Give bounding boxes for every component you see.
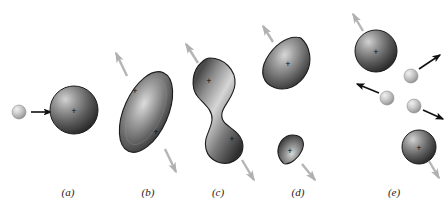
charge-mark: +	[229, 134, 234, 144]
daughter-nucleus-small: +	[402, 130, 436, 164]
panel-label-e: (e)	[388, 186, 401, 199]
panel-label-d: (d)	[292, 186, 305, 199]
emitted-neutron-2	[380, 91, 394, 105]
emitted-neutron-1	[404, 69, 418, 83]
fission-diagram-canvas: + (a) + + (b) + + (c)	[0, 0, 444, 213]
charge-mark: +	[416, 143, 421, 153]
daughter-nucleus-large: +	[355, 30, 397, 72]
charge-mark: +	[206, 76, 211, 86]
panel-label-c: (c)	[212, 186, 225, 199]
charge-mark: +	[285, 59, 290, 69]
panel-label-b: (b)	[142, 186, 155, 199]
charge-mark: +	[287, 146, 292, 156]
fission-figure: + (a) + + (b) + + (c)	[0, 0, 444, 213]
panel-label-a: (a)	[62, 186, 75, 199]
charge-mark: +	[71, 106, 76, 116]
emitted-neutron-3	[407, 99, 421, 113]
charge-mark: +	[373, 47, 378, 57]
target-nucleus: +	[50, 86, 98, 134]
incident-neutron	[12, 105, 26, 119]
charge-mark: +	[132, 86, 137, 96]
charge-mark: +	[153, 127, 158, 137]
